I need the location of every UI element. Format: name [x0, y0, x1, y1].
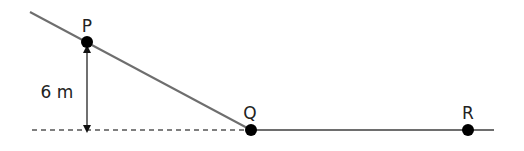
point-label-q: Q — [243, 103, 256, 123]
point-p — [81, 36, 93, 48]
point-label-r: R — [462, 103, 474, 123]
point-q — [245, 124, 257, 136]
points-layer: PQR — [81, 16, 474, 136]
height-label: 6 m — [41, 82, 74, 102]
point-r — [462, 124, 474, 136]
slope-line-p-q — [30, 12, 251, 130]
point-label-p: P — [82, 16, 92, 36]
slope-diagram: 6 m PQR — [0, 0, 524, 151]
